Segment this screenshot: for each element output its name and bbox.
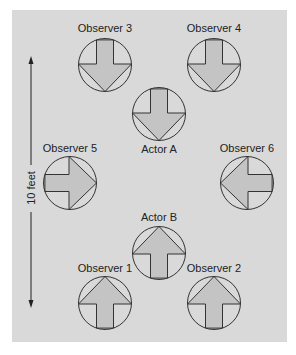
label-observer-1: Observer 1 bbox=[78, 262, 132, 274]
observer-6-figure bbox=[221, 157, 274, 210]
observer-2-figure bbox=[188, 277, 241, 330]
label-observer-5: Observer 5 bbox=[43, 142, 97, 154]
label-observer-3: Observer 3 bbox=[78, 22, 132, 34]
label-observer-4: Observer 4 bbox=[187, 22, 241, 34]
label-observer-6: Observer 6 bbox=[220, 142, 274, 154]
actor-b-figure bbox=[133, 227, 186, 280]
label-actor-b: Actor B bbox=[141, 211, 177, 223]
observer-1-figure bbox=[79, 277, 132, 330]
label-observer-2: Observer 2 bbox=[187, 262, 241, 274]
diagram-svg bbox=[0, 0, 296, 355]
observer-5-figure bbox=[44, 157, 97, 210]
scale-label: 10 feet bbox=[25, 171, 37, 205]
diagram-stage: 10 feet Observer 3 Observer 4 Actor A Ob… bbox=[0, 0, 296, 355]
label-actor-a: Actor A bbox=[141, 143, 176, 155]
actor-a-figure bbox=[133, 88, 186, 141]
observer-4-figure bbox=[188, 39, 241, 92]
observer-3-figure bbox=[79, 39, 132, 92]
